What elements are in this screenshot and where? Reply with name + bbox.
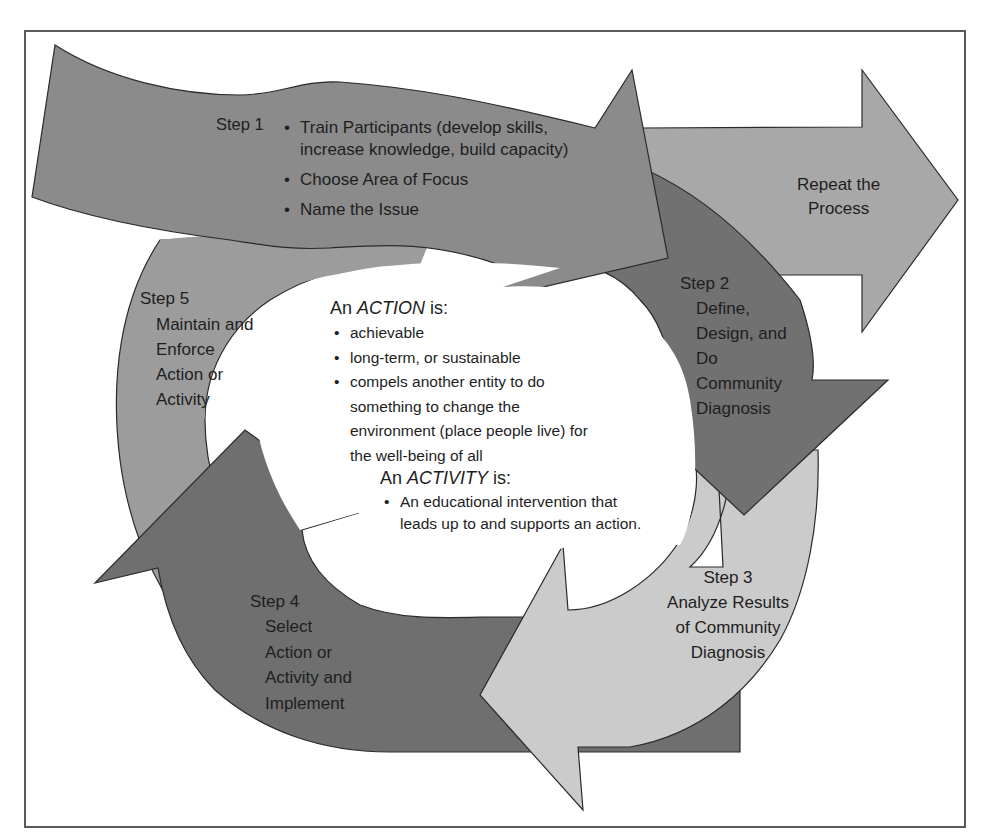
step1-label: Step 1 xyxy=(216,112,264,136)
activity-bullet: An educational intervention thatleads up… xyxy=(380,491,641,535)
activity-heading: An ACTIVITY is: xyxy=(380,465,641,491)
step3-text: Step 3 Analyze Results of Community Diag… xyxy=(653,565,803,665)
step2-label: Step 2 xyxy=(680,272,729,296)
step1-bullets: Train Participants (develop skills,incre… xyxy=(280,117,568,221)
action-definition: An ACTION is: achievable long-term, or s… xyxy=(330,295,588,468)
action-bullets: achievable long-term, or sustainable com… xyxy=(330,321,588,468)
step1-bullet-name: Name the Issue xyxy=(280,199,568,221)
action-bullet: long-term, or sustainable xyxy=(330,346,588,371)
step4-label: Step 4 xyxy=(250,590,299,614)
repeat-process-label: Repeat the Process xyxy=(797,173,880,221)
action-heading: An ACTION is: xyxy=(330,295,588,321)
step4-description: Select Action or Activity and Implement xyxy=(265,614,352,716)
step5-label: Step 5 xyxy=(140,287,189,311)
step5-description: Maintain and Enforce Action or Activity xyxy=(156,312,253,412)
activity-definition: An ACTIVITY is: An educational intervent… xyxy=(380,465,641,535)
step3-label: Step 3 xyxy=(653,565,803,590)
action-bullet: compels another entity to dosomething to… xyxy=(330,370,588,468)
step1-bullet-train: Train Participants (develop skills,incre… xyxy=(280,117,568,161)
step2-description: Define, Design, and Do Community Diagnos… xyxy=(696,296,787,421)
activity-bullets: An educational intervention thatleads up… xyxy=(380,491,641,535)
step1-bullet-choose: Choose Area of Focus xyxy=(280,169,568,191)
action-bullet: achievable xyxy=(330,321,588,346)
